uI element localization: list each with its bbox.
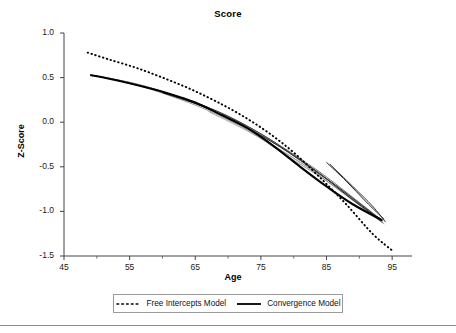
dotted-line-icon: [116, 300, 142, 308]
axes-layer: [60, 33, 412, 260]
legend-item-free-intercepts: Free Intercepts Model: [116, 299, 227, 308]
x-tick-label: 55: [115, 262, 145, 272]
chart-figure: Score Z-Score Age -1.5-1.0-0.50.00.51.0 …: [0, 0, 456, 333]
x-tick-label: 45: [49, 262, 79, 272]
chart-legend: Free Intercepts Model Convergence Model: [113, 294, 343, 313]
series-line: [90, 75, 379, 219]
series-line: [90, 75, 382, 220]
legend-label-convergence: Convergence Model: [267, 299, 340, 308]
y-tick-label: 0.0: [20, 116, 54, 126]
series-line: [88, 53, 394, 252]
y-tick-label: -1.5: [20, 250, 54, 260]
x-axis-label: Age: [64, 272, 402, 282]
legend-item-convergence: Convergence Model: [236, 299, 340, 308]
series-line: [117, 80, 382, 222]
x-tick-label: 95: [377, 262, 407, 272]
plot-area: [0, 0, 456, 333]
bottom-divider: [0, 325, 456, 326]
y-tick-label: 0.5: [20, 72, 54, 82]
x-tick-label: 65: [180, 262, 210, 272]
y-tick-label: -1.0: [20, 205, 54, 215]
y-tick-label: -0.5: [20, 161, 54, 171]
legend-label-free-intercepts: Free Intercepts Model: [147, 299, 227, 308]
x-tick-label: 75: [246, 262, 276, 272]
x-tick-label: 85: [312, 262, 342, 272]
series-line: [90, 75, 382, 220]
series-layer: [88, 53, 394, 252]
series-line: [327, 162, 385, 219]
series-line: [182, 97, 380, 219]
series-line: [90, 75, 384, 224]
y-tick-label: 1.0: [20, 27, 54, 37]
solid-line-icon: [236, 300, 262, 308]
